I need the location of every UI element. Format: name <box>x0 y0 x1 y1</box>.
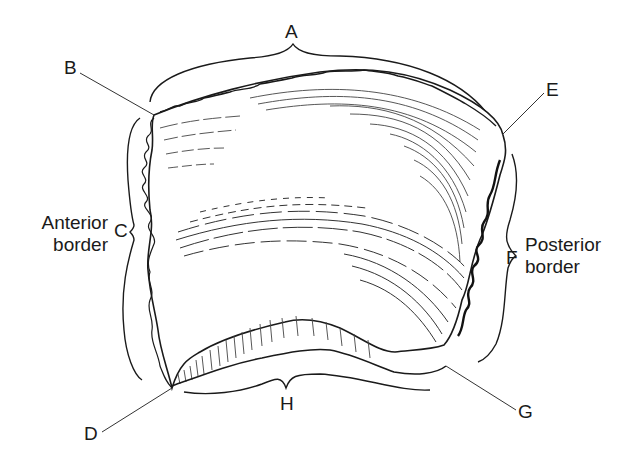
brace-c <box>123 118 142 380</box>
anterior-border-label: Anterior border <box>30 212 108 256</box>
posterior-border-line2: border <box>525 256 601 278</box>
label-h: H <box>280 394 294 414</box>
label-c: C <box>114 221 128 241</box>
label-g: G <box>518 402 533 422</box>
anterior-border-line1: Anterior <box>30 212 108 234</box>
vertebral-body-outline <box>148 70 506 388</box>
leader-e <box>502 93 544 135</box>
brace-h <box>184 374 430 394</box>
posterior-border-label: Posterior border <box>525 234 601 278</box>
leader-g <box>446 366 516 410</box>
leader-b <box>80 73 154 115</box>
inferior-edge <box>172 349 446 386</box>
label-d: D <box>84 424 98 444</box>
label-e: E <box>546 80 559 100</box>
label-a: A <box>285 22 298 42</box>
anterior-border-line2: border <box>30 234 108 256</box>
leader-d <box>102 388 172 432</box>
posterior-border-line1: Posterior <box>525 234 601 256</box>
label-b: B <box>64 58 77 78</box>
label-f: F <box>506 248 518 268</box>
